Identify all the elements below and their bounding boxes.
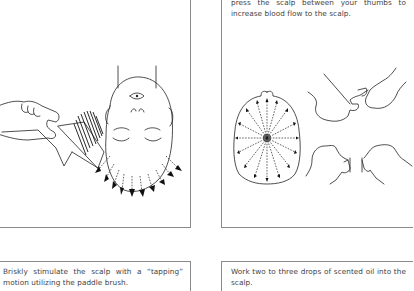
thumbs-pressing-upper-illustration <box>304 66 414 126</box>
paddle-brush-head-illustration <box>0 0 191 228</box>
instruction-text: press the scalp between your thumbs to i… <box>231 0 406 19</box>
instruction-panel-brushing <box>0 0 191 228</box>
instruction-text: Briskly stimulate the scalp with a “tapp… <box>3 266 183 288</box>
instruction-panel-thumb-press: press the scalp between your thumbs to i… <box>221 0 413 228</box>
scalp-top-view-illustration <box>227 86 307 186</box>
instruction-text: Work two to three drops of scented oil i… <box>231 266 406 288</box>
thumbs-pressing-lower-illustration <box>304 136 414 186</box>
instruction-panel-tapping: Briskly stimulate the scalp with a “tapp… <box>0 261 191 291</box>
instruction-panel-scented-oil: Work two to three drops of scented oil i… <box>221 261 413 291</box>
